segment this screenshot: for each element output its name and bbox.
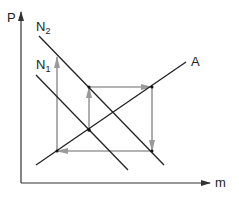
- line-n1-label: N1: [36, 58, 50, 74]
- line-n1-label-main: N: [36, 57, 45, 72]
- intersection-point: [151, 150, 154, 153]
- line-a: [36, 62, 186, 165]
- x-axis-label: m: [215, 176, 226, 189]
- line-n2-label-main: N: [36, 19, 45, 34]
- line-n2-label-sub: 2: [45, 26, 50, 36]
- intersection-point: [87, 128, 91, 132]
- line-n2-label: N2: [36, 20, 50, 36]
- intersection-point: [151, 86, 154, 89]
- y-axis-label: P: [7, 11, 16, 24]
- line-n1-label-sub: 1: [45, 64, 50, 74]
- line-a-label: A: [191, 55, 200, 68]
- intersection-point: [88, 86, 91, 89]
- intersection-point: [56, 150, 59, 153]
